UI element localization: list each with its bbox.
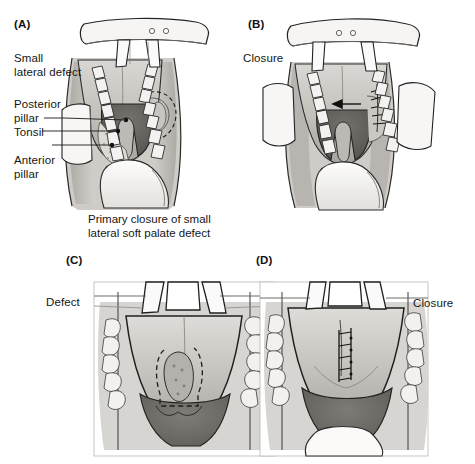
label-tonsil: Tonsil [14,126,44,140]
cheek-retractor-paddle [62,104,92,164]
label-defect-c: Defect [46,296,80,310]
label-closure-d: Closure [413,297,453,311]
panel-c: (C) [60,258,275,458]
panel-b-letter: (B) [248,18,265,30]
label-closure-b: Closure [243,52,283,66]
panel-a-letter: (A) [14,18,31,30]
label-anterior-pillar: Anterior pillar [14,154,55,181]
panel-d: (D) [258,258,458,458]
panel-a: (A) Small lateral defect Posterior pilla… [0,0,240,240]
cheek-retractor-left-b [263,84,295,147]
panel-c-illustration [60,258,275,458]
mouth-retractor-frame [80,18,208,44]
panel-c-letter: (C) [66,254,83,266]
panel-d-illustration [258,258,458,458]
panel-b: (B) Closure [235,0,475,240]
figure-root: (A) Small lateral defect Posterior pilla… [0,0,475,464]
panel-b-illustration [235,0,475,240]
cheek-retractor-right-b [397,83,435,150]
label-small-lateral-defect: Small lateral defect [14,52,81,79]
label-posterior-pillar: Posterior pillar [14,98,61,125]
panel-d-letter: (D) [256,254,273,266]
retractor-blade-left-b [312,42,325,71]
panel-a-caption: Primary closure of small lateral soft pa… [88,212,211,240]
